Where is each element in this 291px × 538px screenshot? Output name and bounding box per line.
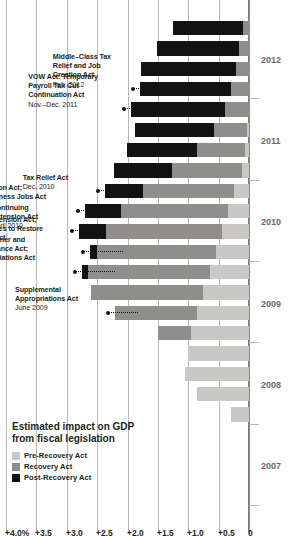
bar-segment-rec bbox=[143, 184, 234, 198]
bar-segment-post bbox=[127, 143, 197, 157]
legend-label: Recovery Act bbox=[24, 462, 72, 471]
bar-segment-post bbox=[85, 204, 121, 218]
bar-segment-rec bbox=[91, 285, 203, 299]
year-axis-label: 2007 bbox=[261, 461, 281, 471]
bar-segment-rec bbox=[115, 306, 197, 320]
bar-2009Q4 bbox=[6, 265, 249, 279]
bar-segment-pre bbox=[247, 123, 249, 137]
bar-segment-rec bbox=[121, 204, 227, 218]
bar-segment-pre bbox=[210, 265, 249, 279]
bar-segment-rec bbox=[236, 62, 249, 76]
bar-2008Q2 bbox=[6, 387, 249, 401]
bar-segment-pre bbox=[242, 163, 249, 177]
bar-segment-post bbox=[173, 21, 243, 35]
bar-2008Q4 bbox=[6, 346, 249, 360]
bar-2011Q2 bbox=[6, 143, 249, 157]
bar-segment-rec bbox=[243, 21, 249, 35]
year-tick bbox=[249, 180, 259, 181]
bar-segment-rec bbox=[97, 245, 215, 259]
legend-swatch-icon bbox=[12, 462, 20, 470]
bar-segment-post bbox=[105, 184, 143, 198]
bar-segment-rec bbox=[231, 82, 249, 96]
bar-segment-pre bbox=[245, 143, 249, 157]
value-gridline bbox=[249, 0, 250, 534]
title-legend-block: Estimated impact on GDP from fiscal legi… bbox=[12, 421, 162, 484]
annotation-leader-temporary-extension-act bbox=[83, 251, 123, 252]
value-axis-label: +2.0 bbox=[127, 528, 144, 538]
bar-segment-rec bbox=[158, 326, 191, 340]
bar-segment-pre bbox=[234, 184, 249, 198]
legend-item-pre[interactable]: Pre-Recovery Act bbox=[12, 451, 162, 460]
bar-segment-rec bbox=[214, 123, 247, 137]
bar-2007Q1 bbox=[6, 489, 249, 503]
bar-2012Q3 bbox=[6, 41, 249, 55]
legend-swatch-icon bbox=[12, 473, 20, 481]
value-axis-label: +1.5 bbox=[157, 528, 174, 538]
bar-segment-post bbox=[90, 245, 97, 259]
annotation-leader-tax-relief-act bbox=[98, 190, 128, 191]
bar-segment-pre bbox=[197, 387, 249, 401]
legend-label: Post-Recovery Act bbox=[24, 473, 91, 482]
annotation-leader-continuing-extension-act bbox=[72, 231, 106, 232]
value-axis-label: +4.0% bbox=[5, 528, 29, 538]
bar-segment-pre bbox=[197, 306, 249, 320]
annotation-leader-vow-act bbox=[124, 109, 150, 110]
bar-segment-pre bbox=[188, 346, 249, 360]
bar-segment-rec bbox=[172, 163, 242, 177]
bar-segment-post bbox=[141, 62, 235, 76]
year-tick bbox=[249, 342, 259, 343]
bar-segment-pre bbox=[185, 367, 249, 381]
value-axis-label: +3.0 bbox=[66, 528, 83, 538]
bar-segment-rec bbox=[106, 224, 221, 238]
year-axis-label: 2010 bbox=[261, 217, 281, 227]
annotation-supplemental-appropriations-act: Supplemental Appropriations ActJune 2009 bbox=[15, 285, 78, 313]
year-axis-label: 2008 bbox=[261, 380, 281, 390]
bar-2008Q1 bbox=[6, 407, 249, 421]
legend-label: Pre-Recovery Act bbox=[24, 451, 87, 460]
bar-segment-pre bbox=[191, 326, 249, 340]
bar-segment-post bbox=[131, 102, 225, 116]
legend-swatch-icon bbox=[12, 451, 20, 459]
year-tick bbox=[249, 424, 259, 425]
year-tick bbox=[249, 505, 259, 506]
bar-segment-post bbox=[114, 163, 172, 177]
legend-item-post[interactable]: Post-Recovery Act bbox=[12, 473, 162, 482]
bar-segment-pre bbox=[216, 245, 249, 259]
year-axis-label: 2012 bbox=[261, 55, 281, 65]
chart-title: Estimated impact on GDP from fiscal legi… bbox=[12, 421, 162, 445]
annotation-leader-supplemental-appropriations-act bbox=[108, 312, 138, 313]
value-axis-label: +1.0 bbox=[187, 528, 204, 538]
year-tick bbox=[249, 98, 259, 99]
bar-segment-post bbox=[140, 82, 231, 96]
bar-segment-rec bbox=[88, 265, 210, 279]
value-axis-label: +0.5 bbox=[218, 528, 235, 538]
bar-segment-pre bbox=[228, 204, 249, 218]
annotation-leader-middle-class-tax-relief-and-job-creation-act bbox=[133, 88, 155, 89]
bar-segment-rec bbox=[239, 41, 249, 55]
bar-segment-pre bbox=[222, 224, 249, 238]
bar-2012Q4 bbox=[6, 21, 249, 35]
bar-segment-post bbox=[135, 123, 214, 137]
annotation-leader-worker-homeowner-business-assistance-act bbox=[75, 271, 115, 272]
annotation-leader-unemployment-compensation-extension-act bbox=[78, 210, 110, 211]
bar-segment-post bbox=[157, 41, 239, 55]
bar-segment-post bbox=[82, 265, 88, 279]
legend-item-rec[interactable]: Recovery Act bbox=[12, 462, 162, 471]
bar-2008Q3 bbox=[6, 367, 249, 381]
bar-2009Q1 bbox=[6, 326, 249, 340]
annotation-middle-class-tax-relief-and-job-creation-act: Middle–Class Tax Relief and Job Creation… bbox=[52, 52, 110, 89]
bar-segment-pre bbox=[203, 285, 249, 299]
bar-segment-rec bbox=[197, 143, 246, 157]
year-tick bbox=[249, 261, 259, 262]
year-axis-label: 2009 bbox=[261, 299, 281, 309]
annotation-tax-relief-act: Tax Relief ActDec. 2010 bbox=[23, 172, 68, 190]
value-axis-label: +3.5 bbox=[35, 528, 52, 538]
bar-segment-post bbox=[79, 224, 106, 238]
bar-segment-pre bbox=[231, 407, 249, 421]
bar-2011Q3 bbox=[6, 123, 249, 137]
value-axis-label: +2.5 bbox=[96, 528, 113, 538]
year-axis-label: 2011 bbox=[261, 136, 281, 146]
bar-segment-rec bbox=[225, 102, 249, 116]
